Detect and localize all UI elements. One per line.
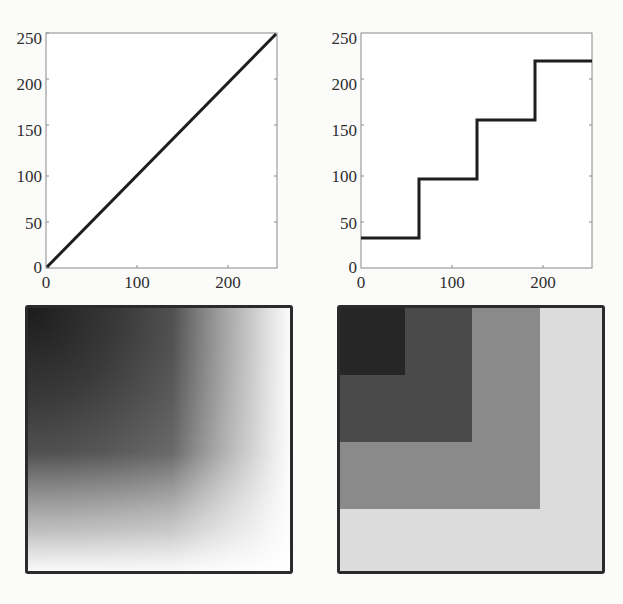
quantization-staircase-plot: 250 200 150 100 50 0 0 100 200 <box>311 0 623 300</box>
y-tick-label: 50 <box>25 214 42 233</box>
y-tick-label: 250 <box>332 29 358 48</box>
y-tick-label: 250 <box>17 29 43 48</box>
identity-mapping-plot: 250 200 150 100 50 0 0 100 200 <box>0 0 311 300</box>
x-tick-label: 200 <box>530 273 556 292</box>
x-tick-label: 100 <box>124 273 150 292</box>
x-tick-label: 0 <box>357 273 366 292</box>
identity-mapping-svg: 250 200 150 100 50 0 0 100 200 <box>0 0 311 300</box>
x-tick-label: 200 <box>215 273 241 292</box>
y-tick-label: 0 <box>349 258 358 277</box>
y-tick-label: 50 <box>340 214 357 233</box>
quant-level-1 <box>340 308 405 375</box>
y-tick-label: 150 <box>17 121 43 140</box>
x-tick-label: 100 <box>439 273 465 292</box>
quantized-gradient-image <box>337 305 605 574</box>
y-tick-label: 200 <box>17 75 43 94</box>
y-tick-label: 200 <box>332 75 358 94</box>
quantization-staircase-svg: 250 200 150 100 50 0 0 100 200 <box>311 0 623 300</box>
y-tick-label: 150 <box>332 121 358 140</box>
y-tick-label: 0 <box>34 258 43 277</box>
x-tick-label: 0 <box>42 273 51 292</box>
y-tick-label: 100 <box>332 167 358 186</box>
y-tick-label: 100 <box>17 167 43 186</box>
continuous-gradient-image <box>25 305 293 574</box>
